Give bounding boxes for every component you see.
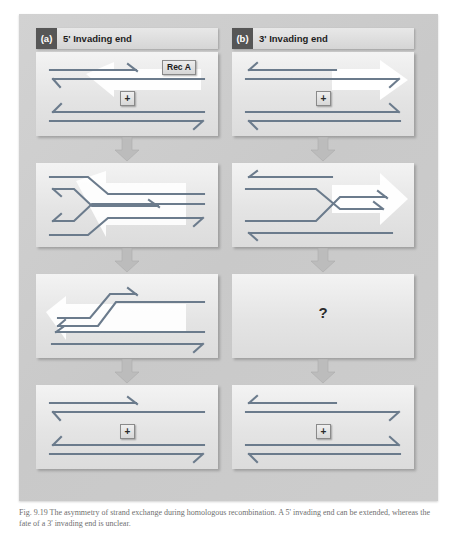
panel-b-connector-3 bbox=[232, 358, 414, 385]
reca-label: Rec A bbox=[162, 60, 196, 75]
panel-a-connector-3 bbox=[36, 358, 218, 385]
down-arrow-icon bbox=[310, 248, 336, 273]
panel-b-step-3: ? bbox=[232, 274, 414, 358]
panel-a-header: (a) 5' Invading end bbox=[36, 28, 218, 49]
panel-b-step-4: + bbox=[232, 385, 414, 469]
panel-b-connector-1 bbox=[232, 136, 414, 163]
panel-a-connector-2 bbox=[36, 247, 218, 274]
panel-a-step-1: + Rec A bbox=[36, 52, 218, 136]
panel-a-connector-1 bbox=[36, 136, 218, 163]
panel-b-step-1: + bbox=[232, 52, 414, 136]
panel-b-connector-2 bbox=[232, 247, 414, 274]
panel-b-tag: (b) bbox=[232, 28, 253, 49]
figure-caption: Fig. 9.19 The asymmetry of strand exchan… bbox=[19, 508, 439, 536]
down-arrow-icon bbox=[310, 359, 336, 384]
down-arrow-icon bbox=[310, 137, 336, 162]
plus-badge: + bbox=[316, 91, 331, 106]
reca-arrow-icon bbox=[332, 173, 408, 225]
down-arrow-icon bbox=[114, 137, 140, 162]
panel-a: (a) 5' Invading end bbox=[36, 28, 218, 469]
plus-badge: + bbox=[120, 424, 135, 439]
down-arrow-icon bbox=[114, 359, 140, 384]
figure-panel: (a) 5' Invading end bbox=[19, 14, 438, 501]
panel-a-title: 5' Invading end bbox=[57, 33, 132, 44]
panel-b-step-2 bbox=[232, 163, 414, 247]
question-mark: ? bbox=[232, 304, 414, 321]
plus-badge: + bbox=[120, 91, 135, 106]
panel-a-step-2 bbox=[36, 163, 218, 247]
panel-b-title: 3' Invading end bbox=[253, 33, 328, 44]
panel-a-step-4: + bbox=[36, 385, 218, 469]
panel-a-step-3 bbox=[36, 274, 218, 358]
down-arrow-icon bbox=[114, 248, 140, 273]
panel-a-tag: (a) bbox=[36, 28, 57, 49]
panel-b-header: (b) 3' Invading end bbox=[232, 28, 414, 49]
plus-badge: + bbox=[316, 424, 331, 439]
panel-b: (b) 3' Invading end bbox=[232, 28, 414, 469]
